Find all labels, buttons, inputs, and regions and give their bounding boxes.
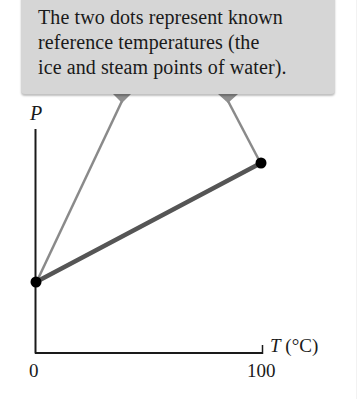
callout-line-3: ice and steam points of water). [38, 55, 335, 80]
callout-line-1: The two dots represent known [38, 5, 335, 30]
x-axis-label-unit: (°C) [285, 335, 318, 356]
x-axis-label-var: T [270, 335, 281, 356]
x-tick-label-0: 0 [29, 361, 39, 381]
pointer-line-steam [228, 101, 260, 162]
y-axis-label: P [30, 103, 42, 123]
x-axis-label: T (°C) [270, 336, 318, 356]
steam-point-dot [256, 158, 267, 169]
callout-line-2: reference temperatures (the [38, 30, 335, 55]
x-tick-label-100: 100 [247, 361, 276, 381]
pointer-line-ice [37, 101, 122, 281]
annotation-callout: The two dots represent known reference t… [21, 0, 335, 94]
calibration-line [36, 163, 261, 282]
ice-point-dot [31, 277, 42, 288]
